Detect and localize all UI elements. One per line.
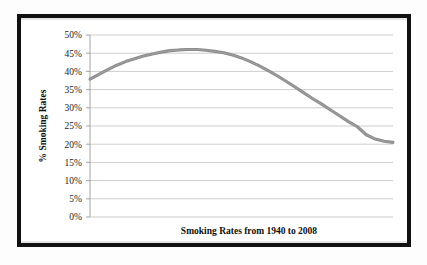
y-axis-tick-label: 20% (65, 140, 83, 150)
line-chart: 50%45%40%35%30%25%20%15%10%5%0% Smoking … (21, 18, 407, 243)
y-axis-tick-label: 0% (69, 212, 82, 222)
y-axis-title: % Smoking Rates (38, 89, 48, 162)
y-axis-tick-label: 45% (65, 49, 83, 59)
page-background: 50%45%40%35%30%25%20%15%10%5%0% Smoking … (0, 0, 427, 265)
data-line-marker-texture (90, 50, 393, 143)
y-axis-tick-label: 10% (65, 176, 83, 186)
y-axis-tick-label: 5% (69, 194, 82, 204)
gridlines (90, 35, 393, 217)
y-axis-tick-label: 25% (65, 121, 83, 131)
y-axis-tick-label: 50% (65, 30, 83, 40)
tick-marks (86, 35, 90, 217)
data-line-smoking-rates (90, 50, 393, 143)
data-series-smoking-rates (90, 50, 393, 143)
x-axis-title: Smoking Rates from 1940 to 2008 (181, 226, 318, 236)
y-axis-tick-label: 15% (65, 158, 83, 168)
chart-figure-frame: 50%45%40%35%30%25%20%15%10%5%0% Smoking … (17, 14, 411, 247)
y-axis-tick-label: 30% (65, 103, 83, 113)
y-axis-tick-label: 40% (65, 67, 83, 77)
y-axis-tick-label: 35% (65, 85, 83, 95)
y-axis-tick-labels: 50%45%40%35%30%25%20%15%10%5%0% (65, 30, 83, 222)
